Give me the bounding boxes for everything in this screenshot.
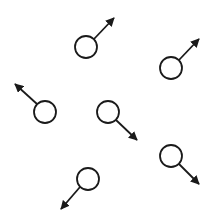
particle-circle	[75, 36, 97, 58]
particle-circle	[160, 145, 182, 167]
particle-diagram	[0, 0, 213, 222]
velocity-arrow-icon	[179, 164, 199, 184]
velocity-arrow-icon	[179, 39, 199, 60]
velocity-arrow-icon	[15, 84, 37, 104]
particle-circle	[77, 168, 99, 190]
particles-group	[15, 18, 199, 209]
particle	[75, 18, 114, 58]
velocity-arrow-icon	[116, 120, 137, 140]
velocity-arrow-icon	[94, 18, 114, 39]
particle-circle	[34, 101, 56, 123]
velocity-arrow-icon	[61, 187, 80, 209]
particle-circle	[160, 57, 182, 79]
particle	[160, 145, 199, 184]
particle-circle	[97, 101, 119, 123]
particle	[15, 84, 56, 123]
particle	[61, 168, 99, 209]
particle	[97, 101, 137, 140]
particle	[160, 39, 199, 79]
